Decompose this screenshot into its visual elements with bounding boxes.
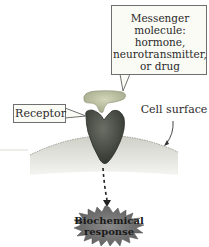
cell-surface bbox=[0, 136, 178, 175]
messenger-callout-pointer bbox=[120, 74, 130, 91]
messenger-label-line: neurotransmitter, bbox=[112, 48, 208, 60]
response-label-line: Biochemical bbox=[74, 215, 144, 226]
messenger-label-line: hormone, bbox=[112, 36, 208, 48]
diagram-canvas: Messenger molecule: hormone, neurotransm… bbox=[0, 0, 209, 247]
messenger-label: Messenger molecule: hormone, neurotransm… bbox=[112, 12, 208, 72]
messenger-label-line: or drug bbox=[112, 60, 208, 72]
messenger-label-line: Messenger bbox=[112, 12, 208, 24]
messenger-label-line: molecule: bbox=[112, 24, 208, 36]
receptor-callout-box: Receptor bbox=[13, 104, 66, 123]
receptor-label: Receptor bbox=[14, 108, 67, 120]
biochemical-response-label: Biochemical response bbox=[74, 215, 144, 237]
messenger-callout-box: Messenger molecule: hormone, neurotransm… bbox=[111, 5, 207, 75]
response-label-line: response bbox=[74, 226, 144, 237]
cell-surface-label: Cell surface bbox=[140, 104, 208, 116]
messenger-molecule-shape bbox=[84, 91, 126, 113]
receptor-callout-pointer bbox=[65, 108, 86, 118]
signal-arrow bbox=[103, 168, 111, 207]
